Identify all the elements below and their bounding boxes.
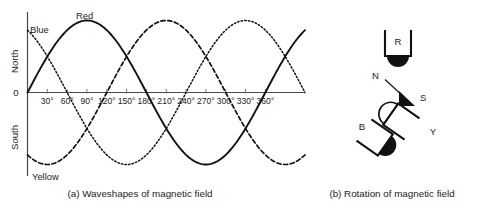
coil-b-label: B: [359, 121, 365, 132]
coil-r: R: [385, 30, 411, 67]
y-axis-label-north: North: [9, 50, 20, 73]
coil-r-pole: [387, 56, 409, 67]
caption-panel-a: (a) Waveshapes of magnetic field: [67, 188, 212, 199]
figure-root: 30°60°90°120°150°180°210°240°270°300°330…: [0, 0, 482, 208]
panel-b-rotation: R B Y N S (b) Rotation of mag: [329, 30, 454, 199]
field-vector-label-s: S: [420, 92, 426, 103]
coil-y: [374, 97, 420, 140]
coil-r-label: R: [395, 36, 402, 47]
caption-panel-b: (b) Rotation of magnetic field: [329, 188, 454, 199]
x-axis-tick-label: 240°: [177, 96, 195, 106]
x-axis-tick-label: 30°: [41, 96, 54, 106]
coil-y-label: Y: [430, 126, 437, 137]
x-axis-tick-label: 90°: [80, 96, 93, 106]
series-label-red: Red: [76, 10, 93, 21]
figure-svg: 30°60°90°120°150°180°210°240°270°300°330…: [0, 0, 482, 208]
x-axis-tick-label: 330°: [237, 96, 255, 106]
x-axis-tick-label: 270°: [197, 96, 215, 106]
field-vector: N S: [372, 70, 426, 106]
series-label-yellow: Yellow: [32, 171, 59, 182]
y-axis-origin-label: 0: [13, 87, 18, 98]
y-axis-label-south: South: [9, 125, 20, 150]
field-vector-arrowhead: [399, 91, 415, 106]
series-label-blue: Blue: [30, 24, 49, 35]
x-axis-tick-label: 150°: [118, 96, 136, 106]
panel-a-waveshapes: 30°60°90°120°150°180°210°240°270°300°330…: [9, 10, 305, 199]
x-axis-tick-label: 210°: [157, 96, 175, 106]
field-vector-label-n: N: [372, 70, 379, 81]
x-axis-tick-labels: 30°60°90°120°150°180°210°240°270°300°330…: [41, 96, 274, 106]
